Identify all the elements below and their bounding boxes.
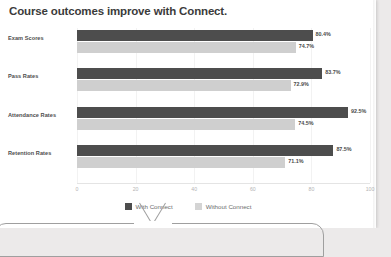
bar-group: 83.7%72.9% [77, 68, 370, 91]
chart-plot-area: 80.4%74.7%83.7%72.9%92.5%74.5%87.5%71.1% [77, 28, 370, 183]
bar-without-connect[interactable] [77, 157, 285, 168]
bar-without-connect[interactable] [77, 42, 296, 53]
x-axis-ticks: 020406080100 [77, 186, 370, 198]
x-axis-tick-label: 20 [133, 186, 139, 192]
category-label: Exam Scores [8, 35, 44, 41]
x-axis-line [77, 183, 370, 184]
bar-group: 92.5%74.5% [77, 107, 370, 130]
bar-value-label: 74.7% [299, 43, 314, 49]
bar-value-label: 71.1% [288, 158, 303, 164]
bar-group: 87.5%71.1% [77, 145, 370, 168]
bar-value-label: 80.4% [316, 31, 331, 37]
bar-without-connect[interactable] [77, 119, 295, 130]
category-label: Attendance Rates [8, 112, 56, 118]
legend-item-without-connect[interactable]: Without Connect [195, 203, 252, 210]
callout-pointer-mask [134, 221, 172, 226]
bar-with-connect[interactable] [77, 107, 348, 118]
bar-with-connect[interactable] [77, 145, 333, 156]
x-axis-tick-label: 0 [76, 186, 79, 192]
chart-legend: With Connect Without Connect [0, 203, 376, 210]
legend-swatch-icon-with-connect [125, 203, 132, 210]
bar-with-connect[interactable] [77, 68, 322, 79]
category-label: Pass Rates [8, 73, 38, 79]
x-axis-tick-label: 100 [366, 186, 375, 192]
bar-value-label: 83.7% [325, 69, 340, 75]
x-axis-tick-label: 80 [309, 186, 315, 192]
category-label: Retention Rates [8, 150, 51, 156]
bar-group: 80.4%74.7% [77, 30, 370, 53]
x-axis-tick-label: 60 [250, 186, 256, 192]
chart-title: Course outcomes improve with Connect. [9, 5, 227, 17]
callout-outline [0, 223, 324, 257]
bar-value-label: 92.5% [351, 108, 366, 114]
bar-without-connect[interactable] [77, 80, 291, 91]
bar-with-connect[interactable] [77, 30, 313, 41]
document-card: Course outcomes improve with Connect. 80… [0, 0, 376, 228]
legend-label-without-connect: Without Connect [206, 203, 252, 210]
x-axis-tick-label: 40 [191, 186, 197, 192]
legend-swatch-icon-without-connect [195, 203, 202, 210]
bar-value-label: 72.9% [294, 81, 309, 87]
gridline [370, 28, 371, 183]
bar-value-label: 74.5% [298, 120, 313, 126]
bar-value-label: 87.5% [336, 146, 351, 152]
